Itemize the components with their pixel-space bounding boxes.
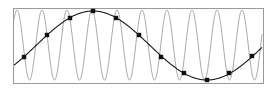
aliasing-diagram [0,0,278,88]
sample-point [68,16,72,20]
diagram-canvas [0,0,278,88]
sample-point [114,16,118,20]
sample-point [91,9,95,13]
sample-point [227,71,231,75]
sample-point [205,78,209,82]
sample-point [22,55,26,59]
high-frequency-wave [14,10,262,80]
sample-point [250,54,254,58]
sample-point [182,71,186,75]
sample-points [22,9,254,82]
sample-point [159,55,163,59]
sample-point [137,33,141,37]
sample-point [45,33,49,37]
